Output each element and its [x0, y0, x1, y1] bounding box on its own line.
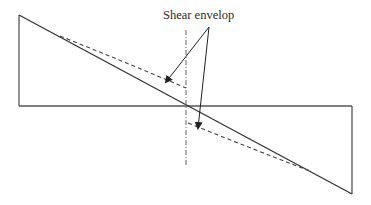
shear-envelope-lower: [188, 123, 310, 171]
leader-arrow-upper: [166, 27, 209, 82]
shear-envelope-label: Shear envelop: [163, 9, 234, 22]
leader-arrow-lower: [198, 27, 209, 128]
shear-envelope-diagram: [0, 0, 371, 205]
